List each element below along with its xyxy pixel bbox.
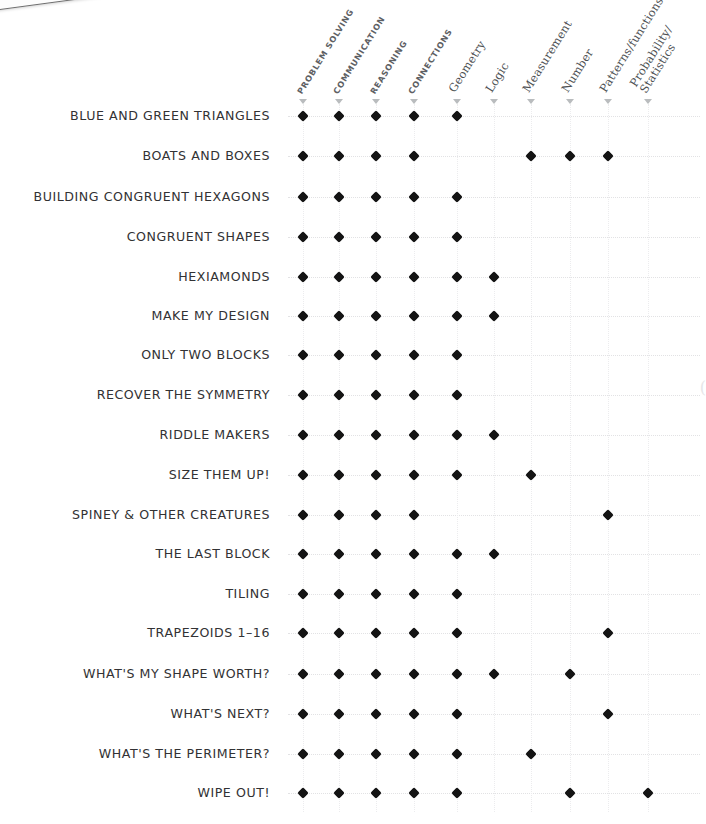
diamond-marker[interactable] [333, 310, 344, 321]
diamond-marker[interactable] [451, 469, 462, 480]
row-label-spiney-and-other-creatures[interactable]: SPINEY & OTHER CREATURES [72, 507, 270, 522]
diamond-marker[interactable] [451, 548, 462, 559]
diamond-marker[interactable] [525, 469, 536, 480]
diamond-marker[interactable] [408, 389, 419, 400]
diamond-marker[interactable] [451, 349, 462, 360]
diamond-marker[interactable] [333, 150, 344, 161]
chevron-down-icon[interactable] [527, 99, 535, 104]
diamond-marker[interactable] [333, 588, 344, 599]
diamond-marker[interactable] [370, 548, 381, 559]
chevron-down-icon[interactable] [453, 99, 461, 104]
diamond-marker[interactable] [333, 110, 344, 121]
diamond-marker[interactable] [525, 150, 536, 161]
diamond-marker[interactable] [408, 787, 419, 798]
diamond-marker[interactable] [408, 668, 419, 679]
diamond-marker[interactable] [370, 110, 381, 121]
diamond-marker[interactable] [488, 310, 499, 321]
diamond-marker[interactable] [451, 429, 462, 440]
row-label-whats-next[interactable]: WHAT'S NEXT? [171, 706, 270, 721]
row-label-make-my-design[interactable]: MAKE MY DESIGN [151, 308, 270, 323]
diamond-marker[interactable] [408, 231, 419, 242]
row-label-whats-the-perimeter[interactable]: WHAT'S THE PERIMETER? [99, 746, 270, 761]
diamond-marker[interactable] [370, 748, 381, 759]
diamond-marker[interactable] [408, 627, 419, 638]
diamond-marker[interactable] [297, 310, 308, 321]
diamond-marker[interactable] [370, 469, 381, 480]
diamond-marker[interactable] [451, 588, 462, 599]
diamond-marker[interactable] [370, 191, 381, 202]
diamond-marker[interactable] [525, 748, 536, 759]
diamond-marker[interactable] [408, 310, 419, 321]
diamond-marker[interactable] [370, 668, 381, 679]
diamond-marker[interactable] [564, 150, 575, 161]
chevron-down-icon[interactable] [644, 99, 652, 104]
diamond-marker[interactable] [333, 389, 344, 400]
diamond-marker[interactable] [408, 548, 419, 559]
diamond-marker[interactable] [333, 548, 344, 559]
diamond-marker[interactable] [408, 748, 419, 759]
diamond-marker[interactable] [488, 668, 499, 679]
diamond-marker[interactable] [333, 627, 344, 638]
diamond-marker[interactable] [333, 191, 344, 202]
diamond-marker[interactable] [297, 110, 308, 121]
diamond-marker[interactable] [488, 548, 499, 559]
diamond-marker[interactable] [451, 231, 462, 242]
diamond-marker[interactable] [370, 349, 381, 360]
diamond-marker[interactable] [333, 668, 344, 679]
diamond-marker[interactable] [333, 748, 344, 759]
row-label-congruent-shapes[interactable]: CONGRUENT SHAPES [127, 229, 270, 244]
diamond-marker[interactable] [408, 708, 419, 719]
diamond-marker[interactable] [297, 627, 308, 638]
diamond-marker[interactable] [408, 110, 419, 121]
diamond-marker[interactable] [451, 271, 462, 282]
diamond-marker[interactable] [408, 191, 419, 202]
diamond-marker[interactable] [602, 150, 613, 161]
diamond-marker[interactable] [297, 389, 308, 400]
diamond-marker[interactable] [370, 389, 381, 400]
diamond-marker[interactable] [297, 748, 308, 759]
row-label-only-two-blocks[interactable]: ONLY TWO BLOCKS [141, 347, 270, 362]
diamond-marker[interactable] [333, 429, 344, 440]
diamond-marker[interactable] [564, 668, 575, 679]
diamond-marker[interactable] [297, 150, 308, 161]
diamond-marker[interactable] [408, 271, 419, 282]
diamond-marker[interactable] [602, 627, 613, 638]
diamond-marker[interactable] [370, 509, 381, 520]
diamond-marker[interactable] [297, 349, 308, 360]
diamond-marker[interactable] [370, 271, 381, 282]
chevron-down-icon[interactable] [566, 99, 574, 104]
diamond-marker[interactable] [451, 627, 462, 638]
row-label-size-them-up[interactable]: SIZE THEM UP! [169, 467, 270, 482]
row-label-wipe-out[interactable]: WIPE OUT! [197, 785, 270, 800]
diamond-marker[interactable] [408, 509, 419, 520]
diamond-marker[interactable] [642, 787, 653, 798]
diamond-marker[interactable] [408, 150, 419, 161]
diamond-marker[interactable] [451, 191, 462, 202]
diamond-marker[interactable] [488, 429, 499, 440]
diamond-marker[interactable] [297, 271, 308, 282]
diamond-marker[interactable] [297, 588, 308, 599]
diamond-marker[interactable] [451, 787, 462, 798]
diamond-marker[interactable] [451, 310, 462, 321]
diamond-marker[interactable] [333, 509, 344, 520]
chevron-down-icon[interactable] [410, 99, 418, 104]
diamond-marker[interactable] [297, 231, 308, 242]
diamond-marker[interactable] [333, 349, 344, 360]
diamond-marker[interactable] [297, 429, 308, 440]
diamond-marker[interactable] [297, 469, 308, 480]
diamond-marker[interactable] [451, 110, 462, 121]
diamond-marker[interactable] [602, 708, 613, 719]
diamond-marker[interactable] [370, 150, 381, 161]
diamond-marker[interactable] [297, 548, 308, 559]
row-label-boats-and-boxes[interactable]: BOATS AND BOXES [142, 148, 270, 163]
diamond-marker[interactable] [333, 708, 344, 719]
diamond-marker[interactable] [564, 787, 575, 798]
diamond-marker[interactable] [370, 310, 381, 321]
row-label-trapezoids-1-16[interactable]: TRAPEZOIDS 1–16 [147, 625, 270, 640]
row-label-recover-the-symmetry[interactable]: RECOVER THE SYMMETRY [97, 387, 270, 402]
row-label-riddle-makers[interactable]: RIDDLE MAKERS [160, 427, 270, 442]
diamond-marker[interactable] [297, 668, 308, 679]
chevron-down-icon[interactable] [372, 99, 380, 104]
row-label-blue-and-green-triangles[interactable]: BLUE AND GREEN TRIANGLES [70, 108, 270, 123]
chevron-down-icon[interactable] [335, 99, 343, 104]
